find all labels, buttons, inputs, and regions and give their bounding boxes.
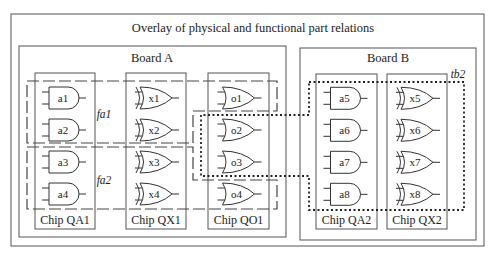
group-label: tb2 bbox=[451, 68, 466, 80]
gate-o1: o1 bbox=[218, 87, 262, 109]
part-relations-diagram: Overlay of physical and functional part … bbox=[0, 0, 495, 259]
chip-qa2: a5a6a7a8Chip QA2 bbox=[316, 74, 377, 229]
gate-label: x2 bbox=[149, 124, 160, 136]
gate-label: o4 bbox=[231, 188, 243, 200]
diagram-title: Overlay of physical and functional part … bbox=[132, 21, 374, 35]
gate-label: a7 bbox=[339, 156, 350, 168]
chip-label: Chip QA1 bbox=[40, 213, 90, 227]
group-label: fa1 bbox=[97, 108, 112, 121]
gate-x1: x1 bbox=[135, 87, 179, 109]
gate-x8: x8 bbox=[396, 183, 440, 205]
chip-label: Chip QX1 bbox=[131, 213, 181, 227]
group-label: fa2 bbox=[97, 174, 112, 187]
gate-x3: x3 bbox=[135, 151, 179, 173]
gate-label: o3 bbox=[231, 156, 243, 168]
gate-label: a2 bbox=[58, 124, 68, 136]
gate-label: o1 bbox=[231, 92, 242, 104]
chip-label: Chip QA2 bbox=[322, 213, 372, 227]
gate-o2: o2 bbox=[218, 119, 262, 141]
gate-a7: a7 bbox=[324, 151, 368, 173]
gate-label: x7 bbox=[410, 156, 422, 168]
chip-label: Chip QX2 bbox=[392, 213, 442, 227]
gate-label: x1 bbox=[149, 92, 160, 104]
chip-label: Chip QO1 bbox=[214, 213, 264, 227]
gate-label: o2 bbox=[231, 124, 242, 136]
gate-x7: x7 bbox=[396, 151, 440, 173]
chip-qa1: a1a2a3a4Chip QA1 bbox=[35, 73, 95, 229]
gate-x5: x5 bbox=[396, 87, 440, 109]
gate-label: x5 bbox=[410, 92, 422, 104]
gate-label: x8 bbox=[410, 188, 422, 200]
chip-qx1: x1x2x3x4Chip QX1 bbox=[126, 73, 186, 229]
gate-o4: o4 bbox=[218, 183, 262, 205]
gate-a6: a6 bbox=[324, 119, 368, 141]
gate-label: a5 bbox=[339, 92, 350, 104]
board-frame bbox=[300, 48, 476, 240]
gate-x2: x2 bbox=[135, 119, 179, 141]
gate-label: x4 bbox=[149, 188, 161, 200]
gate-x6: x6 bbox=[396, 119, 440, 141]
gate-label: a6 bbox=[339, 124, 350, 136]
gate-a4: a4 bbox=[42, 183, 86, 205]
gate-a8: a8 bbox=[324, 183, 368, 205]
gate-label: x6 bbox=[410, 124, 422, 136]
gate-label: a3 bbox=[58, 156, 69, 168]
gate-a1: a1 bbox=[42, 87, 86, 109]
gate-label: a4 bbox=[58, 188, 69, 200]
board-b: Board B bbox=[300, 48, 476, 240]
gate-label: a8 bbox=[339, 188, 350, 200]
chip-qo1: o1o2o3o4Chip QO1 bbox=[208, 73, 269, 229]
board-label: Board B bbox=[367, 51, 409, 65]
board-label: Board A bbox=[131, 51, 173, 65]
gate-o3: o3 bbox=[218, 151, 262, 173]
chip-qx2: x5x6x7x8Chip QX2 bbox=[387, 74, 447, 229]
gate-x4: x4 bbox=[135, 183, 179, 205]
gate-a5: a5 bbox=[324, 87, 368, 109]
gate-label: x3 bbox=[149, 156, 161, 168]
gate-a3: a3 bbox=[42, 151, 86, 173]
chips-layer: a1a2a3a4Chip QA1x1x2x3x4Chip QX1o1o2o3o4… bbox=[35, 73, 447, 229]
gate-a2: a2 bbox=[42, 119, 86, 141]
gate-label: a1 bbox=[58, 92, 68, 104]
